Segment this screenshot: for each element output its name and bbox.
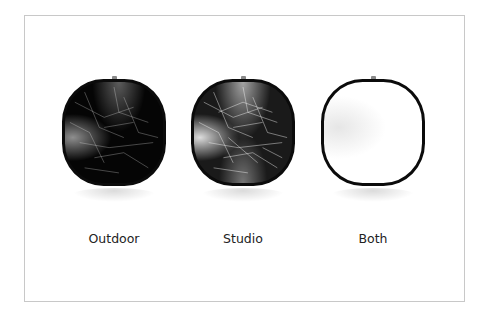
- reflector-outdoor-image: [62, 79, 166, 186]
- reflector-item-studio: Studio: [179, 16, 299, 303]
- label-both: Both: [309, 231, 437, 246]
- reflector-studio-image: [191, 79, 295, 186]
- reflection-shadow: [201, 188, 285, 202]
- reflector-item-both: Both: [309, 16, 429, 303]
- image-frame: Outdoor Studio Both: [24, 15, 465, 302]
- label-studio: Studio: [179, 231, 307, 246]
- reflector-item-outdoor: Outdoor: [50, 16, 170, 303]
- texture-icon: [65, 82, 163, 183]
- reflection-shadow: [72, 188, 156, 202]
- reflection-shadow: [331, 188, 415, 202]
- texture-icon: [194, 82, 292, 183]
- label-outdoor: Outdoor: [50, 231, 178, 246]
- reflector-both-image: [321, 79, 425, 186]
